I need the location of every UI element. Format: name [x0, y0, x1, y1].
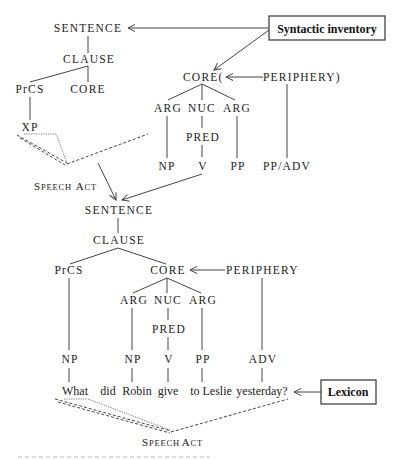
inventory-nuc-node: NUC [188, 102, 216, 114]
word-to-leslie: to Leslie [190, 384, 232, 398]
inventory-to-core-arrow [214, 30, 269, 70]
linked-clause-node: CLAUSE [93, 234, 145, 246]
linked-pp-phrase: PP [195, 353, 210, 365]
inventory-core-node: CORE( [183, 71, 224, 84]
linked-v-phrase: V [164, 353, 174, 365]
word-what: What [62, 384, 89, 398]
linked-arg-node: ARG [189, 294, 217, 306]
top-xp-node: XP [21, 121, 38, 133]
syntactic-inventory-label: Syntactic inventory [277, 22, 377, 36]
linked-periphery-node: PERIPHERY [226, 264, 299, 276]
edge [118, 248, 166, 264]
inventory-v-leaf: V [198, 160, 208, 172]
linked-np-phrase: NP [61, 353, 78, 365]
linked-arg-node: ARG [120, 294, 148, 306]
linked-sentence-tree: SENTENCE CLAUSE PrCS CORE PERIPHERY ARG … [54, 204, 298, 448]
inventory-pp-adv-leaf: PP/ADV [263, 160, 311, 172]
word-robin: Robin [122, 384, 151, 398]
edge [70, 248, 118, 264]
top-prcs-node: PrCS [15, 83, 44, 95]
linked-prcs-node: PrCS [54, 264, 83, 276]
linked-speech-act-label: SPEECHACT [142, 436, 203, 448]
inventory-periphery-node: PERIPHERY) [263, 71, 341, 84]
edge [167, 278, 201, 293]
top-speech-act-label: SPEECHACT [34, 180, 97, 192]
rrg-linking-diagram: SENTENCE CLAUSE PrCS CORE XP SPEECHACT S… [0, 0, 394, 459]
syntactic-inventory: Syntactic inventory CORE( PERIPHERY) ARG… [98, 16, 385, 200]
speech-act-link [55, 399, 171, 431]
inventory-pred-node: PRED [186, 131, 220, 143]
inventory-pp-leaf: PP [230, 160, 245, 172]
inventory-arg-node: ARG [223, 102, 251, 114]
linked-pred-node: PRED [152, 323, 186, 335]
speech-act-link [171, 399, 288, 432]
edge [202, 84, 235, 100]
lexicon-label: Lexicon [328, 385, 369, 399]
edge [168, 84, 202, 100]
top-clause-node: CLAUSE [63, 53, 115, 65]
speech-act-link [17, 135, 67, 163]
word-did: did [100, 384, 115, 398]
sentence-template-tree: SENTENCE CLAUSE PrCS CORE XP SPEECHACT [15, 22, 148, 192]
speech-act-link [24, 134, 67, 163]
linked-core-node: CORE [150, 264, 185, 276]
edge [133, 278, 167, 293]
speech-act-link [58, 402, 170, 433]
edge [30, 66, 88, 82]
linked-sentence-node: SENTENCE [85, 204, 153, 216]
speech-act-link [64, 399, 170, 430]
linked-np-phrase: NP [124, 353, 141, 365]
speech-act-link [67, 134, 148, 164]
lexicon: Lexicon [294, 380, 376, 404]
top-core-node: CORE [70, 83, 105, 95]
inventory-np-leaf: NP [158, 160, 175, 172]
template-to-linked-arrow [98, 163, 116, 200]
inventory-to-linked-arrow [122, 174, 202, 200]
linked-nuc-node: NUC [154, 294, 182, 306]
inventory-arg-node: ARG [154, 102, 182, 114]
top-sentence-node: SENTENCE [54, 22, 122, 34]
speech-act-link [20, 138, 65, 165]
word-give: give [158, 384, 179, 398]
word-yesterday: yesterday? [236, 384, 287, 398]
linked-adv-phrase: ADV [249, 353, 278, 365]
